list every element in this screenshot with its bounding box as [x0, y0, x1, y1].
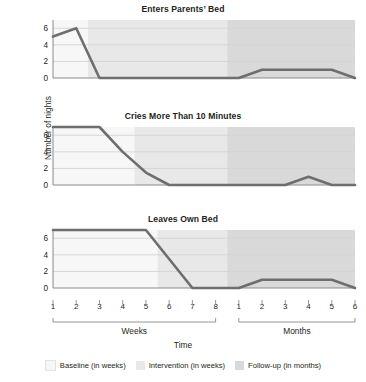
shared-x-axis: 12345678123456 Weeks Months Time — [0, 300, 366, 358]
x-tick-label: 1 — [46, 302, 60, 311]
legend-item-intervention: Intervention (in weeks) — [136, 361, 225, 370]
svg-text:2: 2 — [43, 57, 48, 66]
svg-text:0: 0 — [43, 74, 48, 83]
chart-title: Cries More Than 10 Minutes — [0, 111, 366, 121]
x-tick-label: 3 — [278, 302, 292, 311]
chart-title: Leaves Own Bed — [0, 214, 366, 224]
x-tick-label: 6 — [348, 302, 362, 311]
x-axis-group-label-weeks: Weeks — [53, 326, 216, 336]
x-tick-label: 4 — [116, 302, 130, 311]
svg-text:4: 4 — [43, 251, 48, 260]
chart-panel-enters-parents-bed: Enters Parents’ Bed 0246 — [0, 4, 366, 88]
svg-text:2: 2 — [43, 267, 48, 276]
svg-text:6: 6 — [43, 24, 48, 33]
svg-text:6: 6 — [43, 234, 48, 243]
x-axis-label: Time — [0, 340, 366, 350]
chart-panel-leaves-own-bed: Leaves Own Bed 0246 — [0, 214, 366, 298]
x-tick-label: 7 — [185, 302, 199, 311]
x-tick-label: 6 — [162, 302, 176, 311]
legend-label-intervention: Intervention (in weeks) — [149, 361, 225, 370]
x-tick-label: 2 — [69, 302, 83, 311]
x-tick-label: 3 — [92, 302, 106, 311]
x-tick-label: 5 — [139, 302, 153, 311]
x-tick-label: 5 — [325, 302, 339, 311]
x-tick-label: 1 — [232, 302, 246, 311]
legend: Baseline (in weeks) Intervention (in wee… — [0, 360, 366, 371]
x-axis-group-label-months: Months — [239, 326, 355, 336]
legend-label-followup: Follow-up (in months) — [248, 361, 321, 370]
plot-area: 0246 — [0, 16, 366, 88]
legend-label-baseline: Baseline (in weeks) — [60, 361, 126, 370]
legend-swatch-baseline-icon — [45, 360, 56, 371]
plot-area: 0246 — [0, 123, 366, 195]
chart-title: Enters Parents’ Bed — [0, 4, 366, 14]
legend-swatch-followup-icon — [235, 361, 244, 370]
x-axis-tick-labels: 12345678123456 — [0, 302, 366, 314]
legend-item-baseline: Baseline (in weeks) — [45, 360, 126, 371]
x-tick-label: 2 — [255, 302, 269, 311]
svg-text:0: 0 — [43, 284, 48, 293]
x-tick-label: 4 — [302, 302, 316, 311]
y-axis-label: Number of nights — [43, 84, 53, 172]
x-tick-label: 8 — [209, 302, 223, 311]
legend-item-followup: Follow-up (in months) — [235, 361, 321, 370]
legend-swatch-intervention-icon — [136, 361, 145, 370]
svg-text:4: 4 — [43, 41, 48, 50]
chart-panel-cries-more-than-10-minutes: Cries More Than 10 Minutes 0246 — [0, 111, 366, 195]
plot-area: 0246 — [0, 226, 366, 298]
svg-text:0: 0 — [43, 181, 48, 190]
